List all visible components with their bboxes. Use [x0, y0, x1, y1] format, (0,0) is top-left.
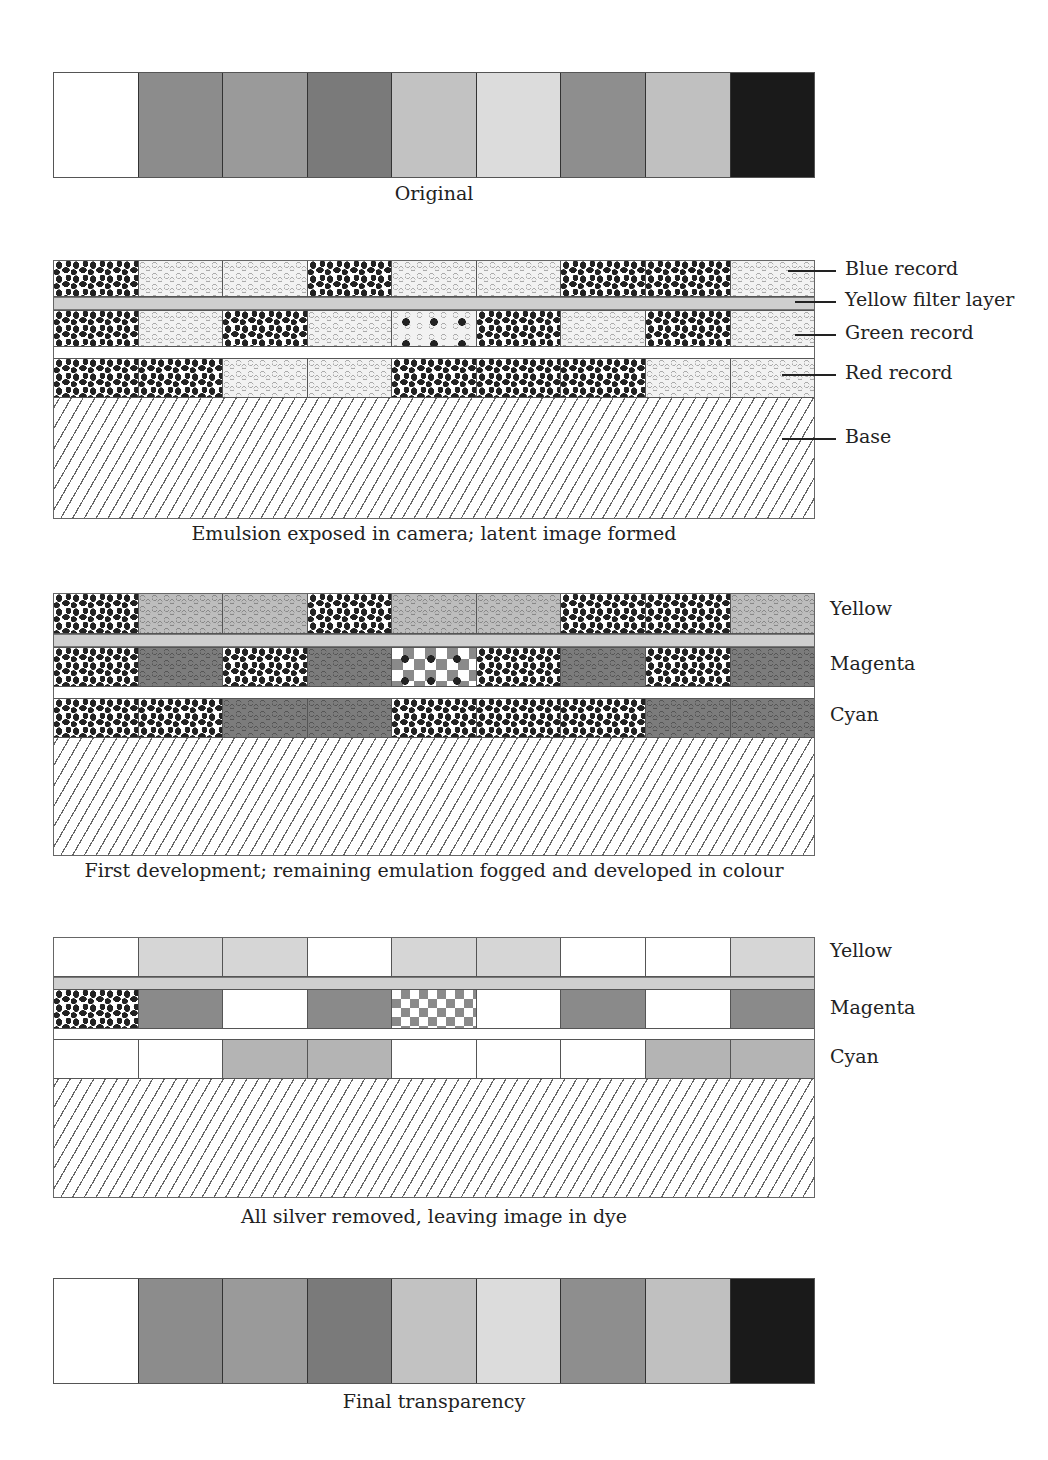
emulsion-cell	[560, 648, 645, 686]
emulsion-cell	[391, 648, 476, 686]
emulsion-cell	[138, 648, 223, 686]
final-caption: Final transparency	[53, 1390, 815, 1412]
emulsion-cell	[54, 311, 138, 346]
magenta-dye-layer	[54, 647, 814, 687]
emulsion-cell	[391, 311, 476, 346]
emulsion-cell	[138, 938, 223, 976]
green-record-label: Green record	[845, 321, 974, 343]
emulsion-cell	[391, 990, 476, 1028]
emulsion-cell	[54, 938, 138, 976]
emulsion-cell	[730, 699, 815, 737]
color-swatch	[138, 73, 223, 177]
color-swatch	[222, 1279, 307, 1383]
emulsion-cell	[222, 938, 307, 976]
yellow-dye-layer	[54, 594, 814, 634]
emulsion-cell	[560, 261, 645, 296]
emulsion-cell	[730, 990, 815, 1028]
color-swatch	[476, 73, 561, 177]
emulsion-cell	[560, 990, 645, 1028]
color-swatch	[560, 73, 645, 177]
emulsion-cell	[730, 1040, 815, 1078]
final-swatch-row	[53, 1278, 815, 1384]
red-record-layer	[54, 358, 814, 398]
emulsion-cell	[730, 594, 815, 633]
green-record-layer	[54, 310, 814, 347]
emulsion-cell	[307, 990, 392, 1028]
emulsion-cell	[307, 261, 392, 296]
exposed-caption: Emulsion exposed in camera; latent image…	[53, 522, 815, 544]
emulsion-cell	[391, 359, 476, 397]
emulsion-cell	[476, 359, 561, 397]
emulsion-cell	[476, 938, 561, 976]
emulsion-cell	[645, 699, 730, 737]
film-base	[54, 398, 814, 518]
emulsion-cell	[222, 699, 307, 737]
emulsion-cell	[645, 990, 730, 1028]
red-record-leader-line	[782, 374, 836, 376]
emulsion-cell	[307, 938, 392, 976]
yellow-layer-label: Yellow	[830, 597, 892, 619]
yellow-filter-leader-line	[795, 301, 836, 303]
yellow-layer-label: Yellow	[830, 939, 892, 961]
magenta-layer-label: Magenta	[830, 652, 915, 674]
original-caption: Original	[53, 182, 815, 204]
emulsion-cell	[645, 1040, 730, 1078]
color-swatch	[391, 73, 476, 177]
blue-record-layer	[54, 261, 814, 297]
emulsion-cell	[560, 699, 645, 737]
emulsion-cell	[560, 1040, 645, 1078]
emulsion-cell	[54, 359, 138, 397]
emulsion-cell	[222, 648, 307, 686]
emulsion-cell	[138, 1040, 223, 1078]
emulsion-cell	[645, 311, 730, 346]
color-swatch	[391, 1279, 476, 1383]
yellow-filter-layer	[54, 634, 814, 647]
emulsion-cell	[54, 261, 138, 296]
emulsion-cell	[476, 594, 561, 633]
emulsion-cell	[307, 699, 392, 737]
magenta-dye-layer	[54, 989, 814, 1029]
emulsion-cell	[222, 990, 307, 1028]
emulsion-cell	[391, 261, 476, 296]
emulsion-cell	[391, 699, 476, 737]
emulsion-cell	[730, 261, 815, 296]
emulsion-cell	[645, 594, 730, 633]
emulsion-cell	[138, 699, 223, 737]
color-swatch	[138, 1279, 223, 1383]
color-swatch	[54, 73, 138, 177]
emulsion-cell	[138, 311, 223, 346]
emulsion-cell	[476, 990, 561, 1028]
emulsion-cell	[391, 938, 476, 976]
color-swatch	[54, 1279, 138, 1383]
green-record-leader-line	[795, 334, 836, 336]
emulsion-cell	[476, 261, 561, 296]
cyan-dye-layer	[54, 698, 814, 738]
yellow-filter-label: Yellow filter layer	[845, 288, 1014, 310]
magenta-layer-label: Magenta	[830, 996, 915, 1018]
emulsion-cell	[54, 1040, 138, 1078]
emulsion-cell	[476, 648, 561, 686]
yellow-dye-layer	[54, 938, 814, 977]
emulsion-cell	[307, 594, 392, 633]
color-swatch	[307, 1279, 392, 1383]
emulsion-cell	[138, 261, 223, 296]
blue-record-leader-line	[788, 270, 836, 272]
emulsion-cell	[307, 311, 392, 346]
base-label: Base	[845, 425, 891, 447]
emulsion-cell	[645, 648, 730, 686]
color-swatch	[730, 1279, 815, 1383]
emulsion-cell	[730, 648, 815, 686]
original-swatch-row	[53, 72, 815, 178]
emulsion-cell	[391, 594, 476, 633]
blue-record-label: Blue record	[845, 257, 958, 279]
emulsion-cell	[222, 594, 307, 633]
yellow-filter-layer	[54, 297, 814, 310]
emulsion-cell	[54, 648, 138, 686]
cyan-dye-layer	[54, 1039, 814, 1079]
base-leader-line	[782, 438, 836, 440]
emulsion-cell	[476, 1040, 561, 1078]
emulsion-cell	[645, 261, 730, 296]
emulsion-cell	[222, 1040, 307, 1078]
color-swatch	[476, 1279, 561, 1383]
red-record-label: Red record	[845, 361, 952, 383]
